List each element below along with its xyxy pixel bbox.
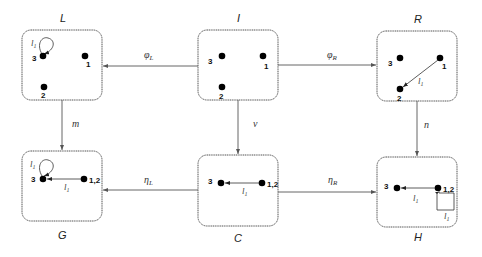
node-1-2 [435,185,442,192]
node-1 [260,53,267,60]
graph-label-I: I [237,12,240,24]
node-3 [218,180,225,187]
morphism-label-eta-R: ηR [328,174,338,187]
node-2 [397,86,404,93]
node-2 [219,84,226,91]
node-label-2: 2 [41,91,46,100]
node-label-3: 3 [31,175,36,184]
graph-G: G l1 3 1,2 l1 [22,151,102,241]
graph-box-G [22,151,102,221]
node-3 [219,53,226,60]
morphism-label-phi-R: φR [327,49,338,62]
node-label-3: 3 [32,54,37,63]
graph-label-L: L [60,12,66,24]
node-label-3: 3 [388,59,393,68]
graph-L: L l1 3 1 2 [22,12,102,100]
node-label-1: 1 [264,62,269,71]
node-2 [41,84,48,91]
morphism-label-eta-L: ηL [144,174,153,187]
dpo-diagram: L l1 3 1 2 I 3 1 2 R 3 1 2 l1 G [0,0,482,257]
node-3 [397,55,404,62]
graph-I: I 3 1 2 [198,12,278,101]
node-label-2: 2 [219,92,224,101]
node-label-3: 3 [208,177,213,186]
node-label-3: 3 [208,57,213,66]
graph-H: H 3 1,2 l1 l1 [377,157,457,243]
graph-label-H: H [414,231,422,243]
graph-C: C 3 1,2 l1 [198,155,279,244]
graph-label-R: R [414,13,422,25]
node-1-2 [81,176,88,183]
node-3 [40,53,47,60]
node-3 [40,176,47,183]
node-1-2 [259,180,266,187]
node-label-1-2: 1,2 [267,180,279,189]
node-label-1: 1 [442,62,447,71]
graph-label-C: C [234,232,242,244]
node-3 [394,185,401,192]
graph-R: R 3 1 2 l1 [377,13,457,103]
morphism-label-nu: ν [253,118,258,129]
morphism-label-phi-L: φL [144,49,154,62]
morphism-label-n: n [424,119,429,130]
node-label-3: 3 [384,182,389,191]
morphism-label-m: m [72,118,79,129]
node-1 [82,53,89,60]
graph-label-G: G [58,229,67,241]
node-label-2: 2 [397,94,402,103]
graph-box-C [198,155,278,226]
node-label-1: 1 [86,60,91,69]
node-label-1-2: 1,2 [89,176,101,185]
